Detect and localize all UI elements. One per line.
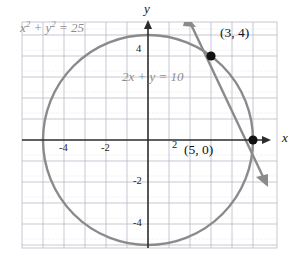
y-tick-label-neg4: -4 [133, 218, 142, 229]
circle-equation-label: x2 + y2 = 25 [20, 20, 84, 34]
circle-equation-mid: + y [30, 20, 51, 35]
math-figure [0, 0, 300, 271]
x-axis-label: x [282, 131, 288, 144]
circle-equation-rhs: = 25 [56, 20, 84, 35]
x-tick-label-2: 2 [172, 140, 177, 151]
x-tick-label-neg4: -4 [59, 143, 68, 154]
point-5-0-marker [248, 135, 257, 144]
point-3-4-marker [206, 51, 215, 60]
point-label-5-0: (5, 0) [184, 143, 213, 157]
line-equation-label: 2x + y = 10 [122, 70, 184, 83]
x-tick-label-neg2: -2 [101, 143, 110, 154]
y-tick-label-neg2: -2 [133, 176, 142, 187]
point-label-3-4: (3, 4) [220, 26, 249, 40]
y-axis-label: y [144, 2, 150, 15]
y-tick-label-4: 4 [136, 44, 141, 55]
